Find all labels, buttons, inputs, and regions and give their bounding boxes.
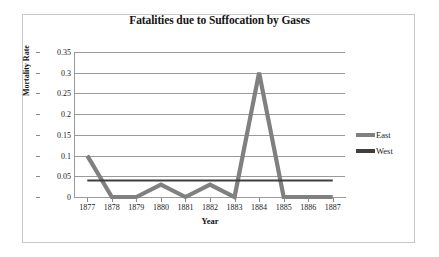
y-axis-tick-label: 0 xyxy=(67,193,71,202)
x-axis-tick-mark xyxy=(161,198,162,202)
legend-label: West xyxy=(376,147,393,156)
x-axis-tick-mark xyxy=(136,198,137,202)
x-axis-tick-label: 1882 xyxy=(202,203,218,212)
x-axis-tick-mark xyxy=(259,198,260,202)
y-axis-tick-mark xyxy=(36,156,40,157)
x-axis-tick-mark xyxy=(112,198,113,202)
legend-item-west[interactable]: West xyxy=(356,143,414,159)
x-axis-tick-label: 1887 xyxy=(325,203,341,212)
y-axis-tick-mark xyxy=(36,93,40,94)
y-axis-tick-label: 0.25 xyxy=(57,89,71,98)
x-axis-tick-label: 1881 xyxy=(177,203,193,212)
y-axis-title: Mortality Rate xyxy=(22,45,31,96)
y-axis-tick-mark xyxy=(36,135,40,136)
series-lines xyxy=(75,52,345,197)
y-axis-tick-label: 0.15 xyxy=(57,130,71,139)
x-axis-tick-label: 1880 xyxy=(153,203,169,212)
y-axis-tick-mark xyxy=(36,73,40,74)
legend-swatch-icon xyxy=(356,133,375,137)
x-axis-tick-label: 1883 xyxy=(227,203,243,212)
y-axis-tick-mark xyxy=(36,197,40,198)
y-axis-tick-label: 0.3 xyxy=(61,68,71,77)
x-axis-tick-label: 1884 xyxy=(251,203,267,212)
x-axis-tick-label: 1879 xyxy=(128,203,144,212)
chart-title: Fatalities due to Suffocation by Gases xyxy=(0,14,439,26)
x-axis-tick-mark xyxy=(210,198,211,202)
x-axis-tick-label: 1878 xyxy=(104,203,120,212)
x-axis-tick-label: 1886 xyxy=(300,203,316,212)
y-axis-tick-mark xyxy=(36,52,40,53)
y-axis-tick-label: 0.35 xyxy=(57,48,71,57)
y-axis-tick-mark xyxy=(36,176,40,177)
x-axis-tick-label: 1885 xyxy=(276,203,292,212)
plot-area xyxy=(75,52,345,197)
y-axis-tick-labels: 00.050.10.150.20.250.30.35 xyxy=(40,52,71,197)
series-line-east xyxy=(87,73,332,197)
legend-swatch-icon xyxy=(356,149,375,153)
y-axis-tick-mark xyxy=(36,114,40,115)
y-axis-tick-label: 0.2 xyxy=(61,110,71,119)
legend-label: East xyxy=(376,131,391,140)
x-axis-title: Year xyxy=(75,216,345,226)
x-axis-tick-mark xyxy=(333,198,334,202)
y-axis-tick-label: 0.05 xyxy=(57,172,71,181)
x-axis-tick-mark xyxy=(235,198,236,202)
x-axis-tick-mark xyxy=(87,198,88,202)
x-axis-tick-mark xyxy=(185,198,186,202)
chart-legend: EastWest xyxy=(356,127,414,159)
x-axis-tick-mark xyxy=(284,198,285,202)
y-axis-tick-label: 0.1 xyxy=(61,151,71,160)
legend-item-east[interactable]: East xyxy=(356,127,414,143)
x-axis-tick-mark xyxy=(308,198,309,202)
x-axis-tick-label: 1877 xyxy=(79,203,95,212)
